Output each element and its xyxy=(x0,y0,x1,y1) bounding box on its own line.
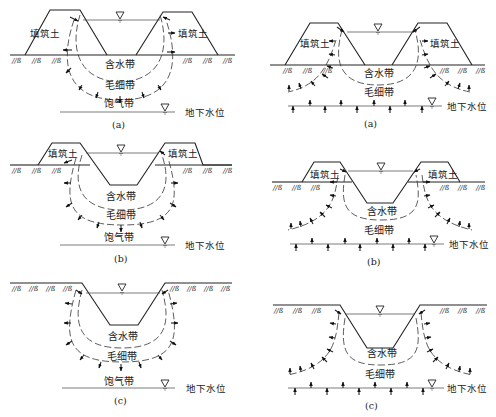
svg-text://ß: //ß xyxy=(186,285,197,293)
water-level-icon xyxy=(374,24,382,34)
svg-text://ß: //ß xyxy=(311,307,322,315)
svg-text://ß: //ß xyxy=(11,167,22,175)
capillary-boundary-right xyxy=(421,313,472,375)
svg-text://ß: //ß xyxy=(31,57,42,65)
panel-left-b: //ß //ß //ß //ß //ß //ß 填筑土 填筑土 含水带 毛细带 … xyxy=(10,143,233,264)
svg-text://ß: //ß xyxy=(202,57,213,65)
svg-text://ß: //ß xyxy=(475,184,486,192)
water-level-icon xyxy=(377,163,385,173)
svg-text://ß: //ß xyxy=(282,67,293,75)
svg-text://ß: //ß xyxy=(272,184,283,192)
groundwater-level-icon xyxy=(430,236,438,246)
panel-left-c: //ß //ß //ß //ß //ß //ß //ß //ß 含水带 毛细带 … xyxy=(10,283,232,406)
svg-text://ß: //ß xyxy=(220,285,231,293)
groundwater-table-label: 地下水位 xyxy=(186,383,226,394)
fill-soil-right-label: 填筑土 xyxy=(168,148,198,159)
fill-soil-left-label: 填筑土 xyxy=(48,148,78,159)
svg-text://ß: //ß xyxy=(457,67,468,75)
svg-text://ß: //ß xyxy=(31,167,42,175)
svg-text://ß: //ß xyxy=(302,67,313,75)
svg-text://ß: //ß xyxy=(203,285,214,293)
zone-wet-label: 含水带 xyxy=(108,330,138,342)
svg-text://ß: //ß xyxy=(475,307,486,315)
svg-text://ß: //ß xyxy=(182,167,193,175)
caption-a: (a) xyxy=(112,119,125,130)
svg-text://ß: //ß xyxy=(11,285,22,293)
canal-section xyxy=(273,305,487,348)
capillary-boundary-left xyxy=(288,313,339,375)
panel-right-c: //ß //ß //ß //ß //ß //ß 含水带 毛细带 地下水位 (c) xyxy=(273,305,487,411)
zone-wet-label: 含水带 xyxy=(364,67,394,79)
groundwater-level-icon xyxy=(428,98,436,108)
svg-text://ß: //ß xyxy=(45,285,56,293)
fill-soil-left-label: 填筑土 xyxy=(30,28,60,39)
fill-soil-left-label: 填筑土 xyxy=(310,169,340,180)
zone-capillary-label: 毛细带 xyxy=(107,350,137,362)
zone-wet-label: 含水带 xyxy=(367,205,397,217)
groundwater-table-label: 地下水位 xyxy=(447,383,487,394)
groundwater-level-icon xyxy=(428,380,436,390)
zone-capillary-label: 毛细带 xyxy=(106,209,136,221)
zone-capillary-label: 毛细带 xyxy=(365,368,395,380)
caption-a: (a) xyxy=(364,118,377,129)
svg-text://ß: //ß xyxy=(475,67,486,75)
caption-b: (b) xyxy=(114,253,128,264)
caption-c: (c) xyxy=(365,400,378,411)
fill-soil-right-label: 填筑土 xyxy=(428,169,458,180)
svg-text://ß: //ß xyxy=(273,307,284,315)
svg-text://ß: //ß xyxy=(28,285,39,293)
svg-text://ß: //ß xyxy=(222,167,233,175)
svg-text://ß: //ß xyxy=(292,307,303,315)
svg-text://ß: //ß xyxy=(51,57,62,65)
fill-soil-right-label: 填筑土 xyxy=(178,28,208,39)
zone-wet-label: 含水带 xyxy=(367,347,397,359)
groundwater-level-icon xyxy=(161,237,169,247)
svg-text://ß: //ß xyxy=(439,67,450,75)
groundwater-table-label: 地下水位 xyxy=(449,239,489,250)
panel-right-b: //ß //ß //ß //ß //ß //ß 填筑土 填筑土 含水带 毛细带 … xyxy=(272,162,489,267)
panel-right-a: //ß //ß //ß //ß //ß //ß 填筑土 填筑土 含水带 毛细带 … xyxy=(270,23,487,129)
groundwater-level-icon xyxy=(161,104,169,114)
zone-capillary-label: 毛细带 xyxy=(105,79,135,91)
water-level-icon xyxy=(376,306,384,316)
groundwater-level-icon xyxy=(161,380,169,390)
caption-c: (c) xyxy=(114,395,127,406)
caption-b: (b) xyxy=(367,256,381,267)
zone-aeration-label: 饱气带 xyxy=(104,375,134,387)
svg-text://ß: //ß xyxy=(222,57,233,65)
svg-text://ß: //ß xyxy=(291,184,302,192)
svg-text://ß: //ß xyxy=(202,167,213,175)
panel-left-a: //ß //ß //ß //ß //ß //ß 填筑土 填筑土 含水带 毛细带 … xyxy=(10,10,235,130)
svg-text://ß: //ß xyxy=(310,184,321,192)
svg-text://ß: //ß xyxy=(51,167,62,175)
svg-text://ß: //ß xyxy=(439,184,450,192)
svg-text://ß: //ß xyxy=(11,57,22,65)
fill-soil-left-label: 填筑土 xyxy=(300,38,330,49)
zone-wet-label: 含水带 xyxy=(106,190,136,202)
svg-text://ß: //ß xyxy=(182,57,193,65)
zone-wet-label: 含水带 xyxy=(105,58,135,70)
svg-text://ß: //ß xyxy=(322,67,333,75)
seepage-diagram: //ß //ß //ß //ß //ß //ß //ß 填筑土 填筑土 含水带 … xyxy=(0,0,496,417)
svg-text://ß: //ß xyxy=(62,285,73,293)
groundwater-table-label: 地下水位 xyxy=(185,240,225,251)
svg-text://ß: //ß xyxy=(457,307,468,315)
svg-text://ß: //ß xyxy=(439,307,450,315)
groundwater-table-label: 地下水位 xyxy=(447,101,487,112)
zone-aeration-label: 饱气带 xyxy=(104,231,134,243)
water-level-icon xyxy=(118,284,126,294)
svg-text://ß: //ß xyxy=(169,285,180,293)
zone-capillary-label: 毛细带 xyxy=(364,86,394,98)
fill-soil-right-label: 填筑土 xyxy=(430,38,460,49)
water-level-icon xyxy=(116,12,124,22)
groundwater-table-label: 地下水位 xyxy=(185,107,225,118)
zone-aeration-label: 饱气带 xyxy=(104,97,134,109)
water-level-icon xyxy=(117,145,125,155)
svg-text://ß: //ß xyxy=(457,184,468,192)
zone-capillary-label: 毛细带 xyxy=(364,224,394,236)
